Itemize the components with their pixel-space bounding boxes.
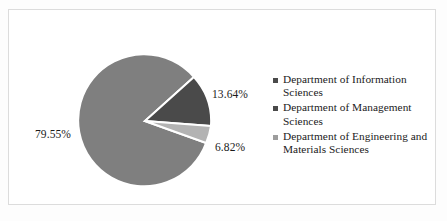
data-label-engineering-materials-sciences: 79.55%	[35, 128, 71, 140]
page-background: 13.64% 6.82% 79.55% Department of Inform…	[0, 0, 447, 221]
legend-item-information-sciences[interactable]: Department of Information Sciences	[273, 73, 441, 99]
legend-item-label: Department of Engineering and Materials …	[283, 130, 441, 156]
chart-legend: Department of Information Sciences Depar…	[273, 73, 441, 158]
data-label-management-sciences: 6.82%	[215, 141, 245, 153]
legend-item-label: Department of Management Sciences	[283, 101, 441, 127]
legend-swatch-icon	[273, 78, 278, 83]
legend-swatch-icon	[273, 106, 278, 111]
legend-swatch-icon	[273, 135, 278, 140]
legend-item-label: Department of Information Sciences	[283, 73, 441, 99]
legend-item-engineering-materials-sciences[interactable]: Department of Engineering and Materials …	[273, 130, 441, 156]
chart-frame: 13.64% 6.82% 79.55% Department of Inform…	[8, 9, 436, 205]
data-label-information-sciences: 13.64%	[212, 88, 248, 100]
legend-item-management-sciences[interactable]: Department of Management Sciences	[273, 101, 441, 127]
pie-chart-area: 13.64% 6.82% 79.55%	[9, 10, 267, 204]
pie-chart	[79, 55, 211, 187]
